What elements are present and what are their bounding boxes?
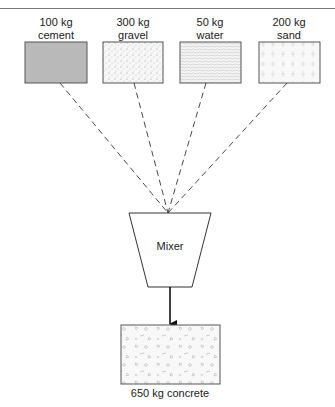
flow-diagram	[0, 0, 335, 407]
mixer-label: Mixer	[140, 240, 200, 252]
cement-connector	[60, 83, 168, 213]
cement-box	[25, 42, 87, 83]
concrete-label: 650 kg concrete	[100, 387, 240, 399]
sand-box	[259, 42, 320, 83]
water-connector	[168, 83, 206, 213]
sand-connector	[168, 83, 287, 213]
gravel-connector	[134, 83, 168, 213]
water-box	[180, 42, 241, 83]
concrete-box	[121, 325, 220, 384]
gravel-box	[103, 42, 163, 83]
